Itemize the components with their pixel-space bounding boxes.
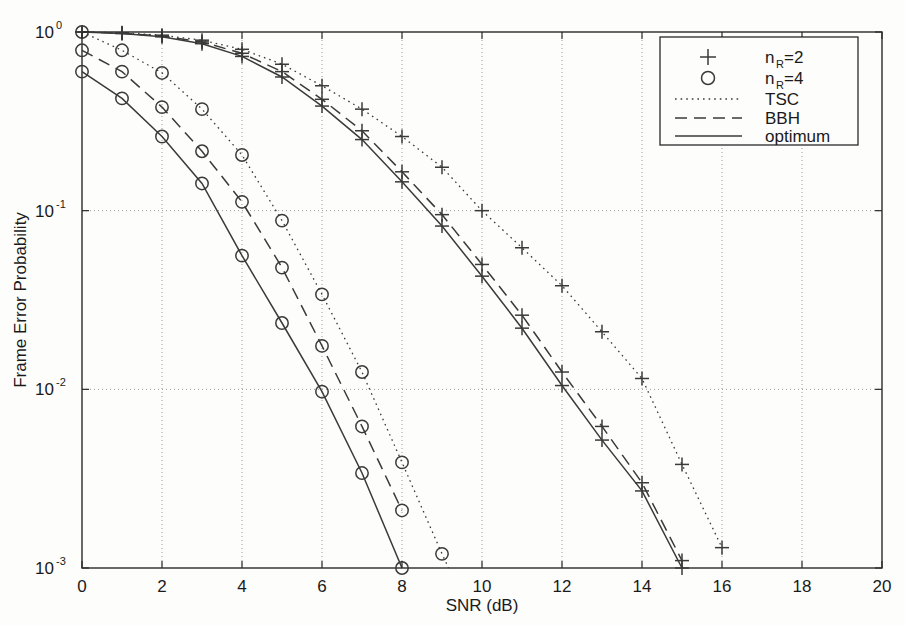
x-tick-label: 4 [237, 577, 246, 596]
y-tick-exponent: -2 [56, 376, 66, 388]
legend-label: BBH [765, 109, 800, 128]
legend-label-subscript: R [776, 58, 784, 70]
frame-error-probability-chart: 02468101214161820 10010-110-210-3 SNR (d… [0, 0, 905, 625]
legend-label: optimum [765, 127, 830, 146]
x-tick-label: 2 [157, 577, 166, 596]
y-tick-exponent: -3 [56, 555, 66, 567]
y-tick-mantissa: 10 [35, 23, 54, 42]
legend-label: n [765, 69, 774, 88]
legend-label: TSC [765, 90, 799, 109]
legend-label: n [765, 48, 774, 67]
x-tick-label: 16 [713, 577, 732, 596]
x-axis-title: SNR (dB) [446, 596, 519, 615]
y-tick-mantissa: 10 [35, 380, 54, 399]
legend: nR=2nR=4TSCBBHoptimum [660, 37, 858, 146]
x-tick-label: 0 [77, 577, 86, 596]
x-tick-label: 18 [793, 577, 812, 596]
figure-container: 02468101214161820 10010-110-210-3 SNR (d… [0, 0, 905, 625]
x-tick-label: 12 [553, 577, 572, 596]
x-tick-label: 10 [473, 577, 492, 596]
y-tick-mantissa: 10 [35, 559, 54, 578]
legend-label-tail: =4 [784, 69, 803, 88]
legend-label-tail: =2 [784, 48, 803, 67]
x-tick-label: 6 [317, 577, 326, 596]
y-tick-exponent: 0 [56, 19, 62, 31]
x-tick-label: 14 [633, 577, 652, 596]
y-tick-exponent: -1 [56, 198, 66, 210]
y-axis-title: Frame Error Probability [11, 212, 30, 388]
y-tick-mantissa: 10 [35, 202, 54, 221]
x-tick-label: 20 [873, 577, 892, 596]
x-tick-label: 8 [397, 577, 406, 596]
